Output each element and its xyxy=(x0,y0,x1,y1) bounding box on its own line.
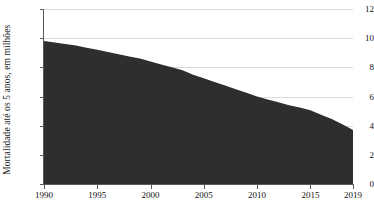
x-tick-label: 2000 xyxy=(142,191,160,200)
y-axis-spine xyxy=(43,9,44,185)
x-tick-mark xyxy=(151,185,152,189)
x-tick-mark xyxy=(204,185,205,189)
x-tick-label: 2019 xyxy=(344,191,362,200)
x-tick-label: 2010 xyxy=(248,191,266,200)
chart-container: Mortalidade até os 5 anos, em milhões 02… xyxy=(0,0,374,214)
x-tick-mark xyxy=(257,185,258,189)
area-series-svg xyxy=(44,9,353,184)
x-tick-mark xyxy=(44,185,45,189)
x-tick-label: 2005 xyxy=(195,191,213,200)
x-tick-label: 1995 xyxy=(88,191,106,200)
y-axis-title: Mortalidade até os 5 anos, em milhões xyxy=(0,0,16,200)
x-tick-mark xyxy=(353,185,354,189)
x-tick-label: 2015 xyxy=(301,191,319,200)
x-axis-spine xyxy=(43,184,354,185)
x-tick-mark xyxy=(97,185,98,189)
area-series-path xyxy=(44,41,353,184)
plot-area xyxy=(44,9,353,184)
x-tick-mark xyxy=(310,185,311,189)
y-axis-title-text: Mortalidade até os 5 anos, em milhões xyxy=(3,25,13,175)
x-tick-label: 1990 xyxy=(35,191,53,200)
